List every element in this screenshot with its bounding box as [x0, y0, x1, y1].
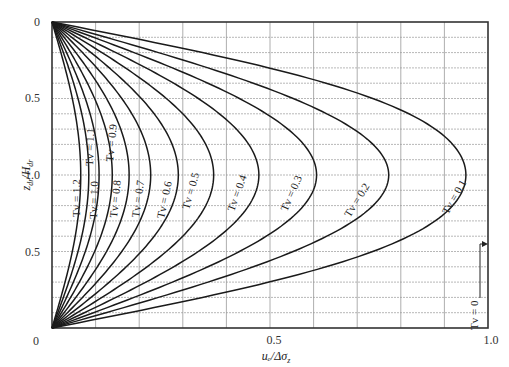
tv-zero-annotation: Tv = 0 [468, 241, 488, 330]
label-tv-0.8: Tv = 0.8 [107, 179, 123, 218]
label-tv-1.1: Tv = 1.1 [83, 128, 96, 166]
x-tick-10: 1.0 [484, 333, 499, 347]
y-axis-title: zdr/Hdr [19, 159, 35, 192]
consolidation-chart: 0 0.5 1.0 0.5 0 0.5 1.0 uₑ/Δσz zdr/Hdr T… [0, 0, 509, 367]
label-tv-1.0: Tv = 1.0 [87, 181, 100, 220]
label-tv-0.3: Tv = 0.3 [278, 173, 304, 213]
x-axis-title: uₑ/Δσz [262, 349, 291, 365]
label-tv-1.2: Tv = 1.2 [70, 179, 82, 217]
x-tick-05: 0.5 [267, 333, 282, 347]
label-tv-0.6: Tv = 0.6 [154, 180, 174, 220]
label-tv-0.2: Tv = 0.2 [342, 181, 372, 219]
label-tv-0.4: Tv = 0.4 [225, 173, 249, 213]
label-tv-0.9: Tv = 0.9 [103, 123, 119, 162]
y-tick-top-05: 0.5 [25, 91, 40, 105]
y-tick-top-0: 0 [34, 15, 40, 29]
label-tv-0.1: Tv = 0.1 [439, 177, 468, 216]
curve-tv=0.8 [52, 22, 129, 328]
y-tick-bot-0: 0 [33, 334, 39, 348]
y-tick-bot-05: 0.5 [25, 245, 40, 259]
label-tv-0: Tv = 0 [468, 300, 480, 330]
